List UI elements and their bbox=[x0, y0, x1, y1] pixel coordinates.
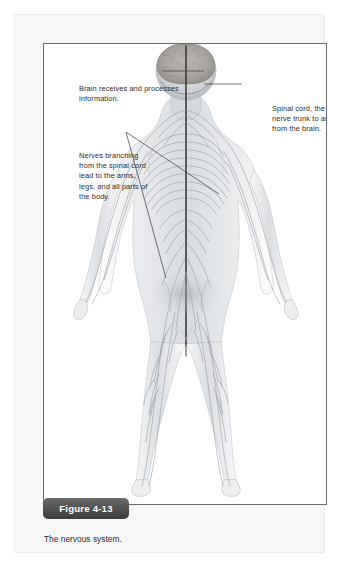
page-panel: Brain receives and processes information… bbox=[14, 14, 325, 553]
annotation-nerves: Nerves branching from the spinal cord le… bbox=[79, 151, 153, 202]
figure-caption: The nervous system. bbox=[44, 533, 314, 545]
figure-number-badge: Figure 4-13 bbox=[43, 498, 129, 519]
figure-page: Brain receives and processes information… bbox=[0, 0, 339, 567]
figure-frame: Brain receives and processes information… bbox=[43, 43, 327, 505]
annotation-spinal-cord: Spinal cord, the main nerve trunk to and… bbox=[272, 104, 327, 135]
annotation-brain: Brain receives and processes information… bbox=[79, 84, 189, 104]
